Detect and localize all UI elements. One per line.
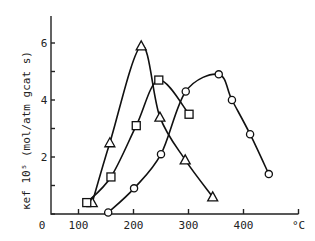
square-marker — [185, 110, 193, 118]
circle-marker — [182, 88, 189, 95]
markers — [83, 41, 273, 216]
circle-marker — [130, 185, 137, 192]
x-tick-label: 200 — [124, 219, 144, 232]
x-tick-label: 400 — [234, 219, 254, 232]
x-tick-label: 0 — [39, 219, 46, 232]
triangle-marker — [105, 138, 115, 147]
x-tick-label: °C — [292, 219, 305, 232]
circle-marker — [265, 171, 272, 178]
curves — [87, 46, 269, 213]
x-tick-label: 300 — [179, 219, 199, 232]
square-marker — [83, 199, 91, 207]
circle-marker — [247, 131, 254, 138]
x-tick-label: 100 — [69, 219, 89, 232]
circle-marker — [157, 151, 164, 158]
circle-marker — [215, 71, 222, 78]
square-marker — [132, 122, 140, 130]
y-tick-label: 6 — [41, 37, 48, 50]
circle-marker — [105, 209, 112, 216]
triangle-marker — [155, 112, 165, 121]
square-marker — [107, 173, 115, 181]
triangle-marker — [136, 41, 146, 50]
tick-labels: 0100200300400°C246 — [39, 37, 305, 232]
y-tick-label: 4 — [41, 94, 48, 107]
circle-marker — [228, 96, 235, 103]
y-axis-label: κef 10⁵ (mol/atm gcat s) — [20, 51, 33, 210]
square-marker — [155, 76, 163, 84]
y-tick-label: 2 — [41, 151, 48, 164]
triangle-marker — [180, 155, 190, 164]
chart: 0100200300400°C246 κef 10⁵ (mol/atm gcat… — [0, 0, 315, 241]
